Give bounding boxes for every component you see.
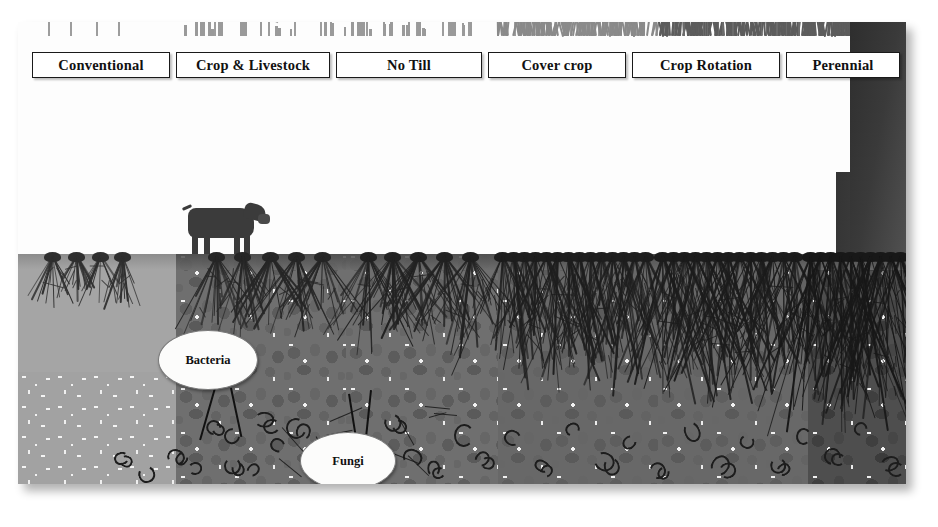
label-no-till-text: No Till <box>387 57 431 74</box>
callout-bacteria-label: Bacteria <box>185 353 230 368</box>
stem <box>683 22 684 36</box>
earthworm-icon <box>563 420 582 439</box>
grass-blade <box>734 22 736 36</box>
cow-icon <box>178 200 270 258</box>
corn-stalk <box>366 22 368 36</box>
stem <box>707 22 708 36</box>
corn-stalk <box>268 22 270 36</box>
label-crop-livestock-text: Crop & Livestock <box>196 57 310 74</box>
corn-stalk <box>442 22 444 36</box>
crop-stubble <box>369 29 372 36</box>
crop-stubble <box>344 27 347 36</box>
earthworm-icon <box>187 461 203 476</box>
stem <box>703 22 704 36</box>
label-crop-livestock[interactable]: Crop & Livestock <box>176 52 330 78</box>
grass-blade <box>506 22 512 36</box>
crop-stubble <box>419 22 422 36</box>
stem <box>732 22 733 36</box>
stem <box>722 22 723 36</box>
fungal-hypha <box>424 406 449 410</box>
earthworm-icon <box>136 463 158 484</box>
corn-stalk <box>96 22 98 36</box>
label-crop-rotation[interactable]: Crop Rotation <box>632 52 780 78</box>
callout-fungi: Fungi <box>300 432 396 484</box>
crop-stubble <box>260 22 263 36</box>
corn-stalk <box>48 22 50 36</box>
crop-stubble <box>383 24 386 36</box>
crop-stubble <box>406 25 409 36</box>
crop-stubble <box>275 26 278 36</box>
crop-stubble <box>422 28 425 36</box>
stem <box>705 22 706 36</box>
stem <box>718 22 719 36</box>
crop-stubble <box>360 28 363 36</box>
crop-stubble <box>211 29 214 36</box>
stem <box>761 22 762 36</box>
earthworm-icon <box>602 456 622 477</box>
earthworm-icon <box>431 465 447 480</box>
earthworm-icon <box>267 435 287 455</box>
corn-stalk <box>320 22 322 36</box>
earthworm-icon <box>244 461 263 480</box>
grass-blade <box>643 22 645 36</box>
callout-bacteria: Bacteria <box>158 330 258 390</box>
corn-stalk <box>70 22 72 36</box>
label-cover-crop[interactable]: Cover crop <box>488 52 626 78</box>
crop-stubble <box>290 29 293 36</box>
callout-fungi-label: Fungi <box>332 454 363 469</box>
soil-health-figure: Bacteria Fungi Conventional Crop & Lives… <box>0 0 938 527</box>
earthworm-icon <box>738 433 756 451</box>
earthworm-icon <box>851 419 870 438</box>
crop-stubble <box>331 23 334 36</box>
crop-stubble <box>389 24 392 36</box>
label-crop-rotation-text: Crop Rotation <box>660 57 752 74</box>
earthworm-icon <box>681 419 704 444</box>
label-cover-crop-text: Cover crop <box>521 57 592 74</box>
grass-blade <box>646 22 651 36</box>
earthworm-icon <box>888 462 905 477</box>
earthworm-icon <box>453 423 475 447</box>
stem <box>786 22 787 36</box>
stem <box>674 22 675 36</box>
crop-stubble <box>402 25 405 36</box>
crop-stubble <box>463 25 466 36</box>
crop-stubble <box>243 22 246 36</box>
crop-stubble <box>470 22 473 36</box>
crop-stubble <box>278 28 281 36</box>
label-perennial[interactable]: Perennial <box>786 52 900 78</box>
fungal-hypha <box>330 408 362 423</box>
earthworm-icon <box>118 454 134 470</box>
crop-stubble <box>220 22 223 36</box>
earthworm-icon <box>502 427 524 448</box>
corn-stalk <box>294 22 296 36</box>
stem <box>776 22 777 36</box>
crop-stubble <box>351 22 354 36</box>
grass-blade <box>833 22 836 36</box>
fungal-hypha <box>278 458 301 477</box>
label-no-till[interactable]: No Till <box>336 52 482 78</box>
crop-stubble <box>184 25 187 36</box>
corn-stalk <box>118 22 120 36</box>
stem <box>766 22 767 36</box>
label-conventional-text: Conventional <box>58 57 143 74</box>
crop-stubble <box>218 22 221 36</box>
earthworm-icon <box>620 433 640 453</box>
crop-stubble <box>202 22 205 36</box>
illustration-panel: Bacteria Fungi Conventional Crop & Lives… <box>18 22 906 484</box>
crop-stubble <box>195 22 198 36</box>
crop-stubble <box>453 22 456 36</box>
label-conventional[interactable]: Conventional <box>32 52 170 78</box>
earthworm-icon <box>262 417 281 435</box>
earthworm-icon <box>480 456 496 470</box>
crop-stubble <box>448 22 451 36</box>
corn-stalk <box>214 22 216 36</box>
crop-stubble <box>324 22 327 36</box>
label-perennial-text: Perennial <box>812 57 873 74</box>
soil-organism-layer <box>18 252 906 484</box>
stem <box>798 22 799 36</box>
earthworm-icon <box>795 427 812 446</box>
